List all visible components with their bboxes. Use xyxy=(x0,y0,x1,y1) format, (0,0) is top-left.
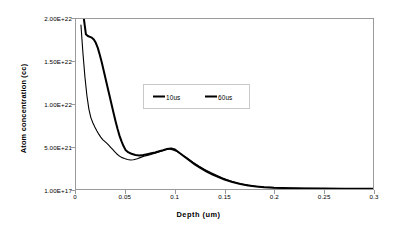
y-tick-label: 5.00E+21 xyxy=(0,144,72,151)
chart-canvas: 2.00E+221.50E+221.00E+225.00E+211.00E+17… xyxy=(0,0,397,234)
x-axis-title: Depth (um) xyxy=(0,210,397,219)
x-axis: 00.050.10.150.20.250.3 xyxy=(0,193,397,207)
x-tick-label: 0.25 xyxy=(318,193,331,200)
x-tick-label: 0.3 xyxy=(369,193,378,200)
legend-label-10us: 10us xyxy=(166,93,180,100)
x-tick-mark xyxy=(374,190,375,194)
legend-label-60us: 60us xyxy=(218,93,232,100)
legend-line-swatch-60us xyxy=(205,96,217,97)
legend-line-swatch-10us xyxy=(153,95,165,97)
x-tick-mark xyxy=(225,190,226,194)
chart-legend: 10us 60us xyxy=(143,84,250,109)
x-tick-mark xyxy=(274,190,275,194)
legend-item-10us: 10us xyxy=(153,93,180,100)
y-axis-title: Atom concentration (cc) xyxy=(19,39,28,179)
x-tick-label: 0.05 xyxy=(119,193,132,200)
x-tick-mark xyxy=(125,190,126,194)
x-tick-label: 0.15 xyxy=(218,193,231,200)
x-tick-mark xyxy=(324,190,325,194)
x-tick-label: 0 xyxy=(73,193,77,200)
y-tick-label: 1.00E+22 xyxy=(0,101,72,108)
x-tick-label: 0.2 xyxy=(270,193,279,200)
x-tick-mark xyxy=(175,190,176,194)
y-tick-label: 1.50E+22 xyxy=(0,58,72,65)
x-tick-mark xyxy=(75,190,76,194)
legend-item-60us: 60us xyxy=(205,93,232,100)
y-tick-label: 2.00E+22 xyxy=(0,15,72,22)
x-tick-label: 0.1 xyxy=(170,193,179,200)
